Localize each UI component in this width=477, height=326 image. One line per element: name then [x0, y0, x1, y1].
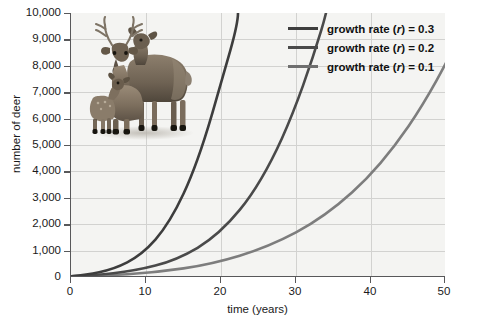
- y-axis-tick: [64, 224, 70, 225]
- x-axis-tick: [295, 277, 296, 283]
- legend-item: growth rate (r) = 0.1: [288, 57, 463, 76]
- x-axis-tick: [70, 277, 71, 283]
- y-axis-title: number of deer: [10, 74, 22, 194]
- y-axis-tick: [64, 92, 70, 93]
- x-axis-tick: [370, 277, 371, 283]
- y-axis-tick: [64, 39, 70, 40]
- x-axis-tick-label: 30: [275, 285, 315, 297]
- y-axis-tick-label: 0: [7, 271, 61, 283]
- y-axis-tick: [64, 251, 70, 252]
- x-axis-tick: [145, 277, 146, 283]
- y-axis-tick: [64, 66, 70, 67]
- x-axis-tick-label: 20: [200, 285, 240, 297]
- y-axis-tick: [64, 119, 70, 120]
- curve-growth-rate-0-1: [71, 63, 445, 276]
- legend-item: growth rate (r) = 0.2: [288, 38, 463, 57]
- y-axis-tick-label: 8,000: [7, 60, 61, 72]
- y-axis-tick: [64, 171, 70, 172]
- y-axis-tick-label: 2,000: [7, 218, 61, 230]
- y-axis-tick: [64, 145, 70, 146]
- x-axis-tick: [220, 277, 221, 283]
- x-axis-tick-label: 10: [125, 285, 165, 297]
- exponential-growth-chart: 10,000 9,000 8,000 7,000 6,000 5,000 4,0…: [0, 0, 477, 326]
- x-axis-tick-label: 0: [50, 285, 90, 297]
- legend-label-growth-rate-0-3: growth rate (r) = 0.3: [327, 23, 434, 35]
- legend-swatch-growth-rate-0-1: [288, 65, 318, 68]
- x-axis-title: time (years): [70, 303, 445, 315]
- y-axis-tick-label: 9,000: [7, 33, 61, 45]
- x-axis-tick-label: 50: [424, 285, 464, 297]
- legend-swatch-growth-rate-0-2: [288, 46, 318, 49]
- y-axis-tick: [64, 198, 70, 199]
- legend-item: growth rate (r) = 0.3: [288, 19, 463, 38]
- y-axis-tick-label: 10,000: [7, 7, 61, 19]
- y-axis-tick: [64, 13, 70, 14]
- legend-swatch-growth-rate-0-3: [288, 27, 318, 30]
- x-axis-tick-label: 40: [350, 285, 390, 297]
- legend-label-growth-rate-0-2: growth rate (r) = 0.2: [327, 42, 434, 54]
- y-axis-tick-label: 1,000: [7, 245, 61, 257]
- legend: growth rate (r) = 0.3 growth rate (r) = …: [288, 19, 463, 76]
- legend-label-growth-rate-0-1: growth rate (r) = 0.1: [327, 61, 434, 73]
- x-axis-tick: [444, 277, 445, 283]
